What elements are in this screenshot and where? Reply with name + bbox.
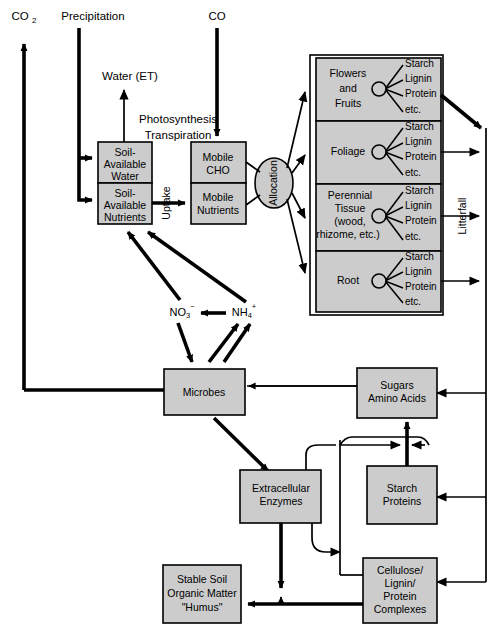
perennial-line-3: (wood, — [334, 215, 366, 227]
box-perennial-tissue[interactable]: Perennial Tissue (wood, rhizome, etc.) S… — [316, 184, 441, 251]
perennial-etc: etc. — [405, 231, 421, 242]
water-et-text: Water (ET) — [102, 70, 158, 82]
box-soil-available-water[interactable]: Soil- Available Water — [98, 142, 152, 183]
soil-water-line-3: Water — [111, 170, 139, 182]
enzymes-line-1: Extracellular — [252, 482, 310, 494]
mobile-cho-line-2: CHO — [206, 164, 229, 176]
foliage-protein: Protein — [405, 151, 437, 162]
root-etc: etc. — [405, 296, 421, 307]
complexes-line-4: Complexes — [374, 603, 427, 615]
svg-text:CO 2: CO 2 — [12, 10, 37, 25]
nutrients-to-allocation-line — [246, 195, 260, 205]
flowers-litterfall-arrow — [441, 95, 481, 128]
root-lignin: Lignin — [405, 266, 432, 277]
soil-nutrients-line-2: Available — [104, 199, 147, 211]
label-precipitation: Precipitation — [61, 10, 124, 22]
box-starch-proteins[interactable]: Starch Proteins — [367, 466, 437, 524]
complexes-line-3: Protein — [383, 590, 416, 602]
enzymes-line-2: Enzymes — [259, 495, 302, 507]
enzyme-bridge-arc — [340, 437, 429, 445]
flowers-line-2: and — [339, 82, 357, 94]
box-mobile-nutrients[interactable]: Mobile Nutrients — [191, 183, 246, 224]
ammonium-sub: 4 — [248, 311, 252, 320]
svg-text:NO3−: NO3− — [169, 302, 195, 320]
co2-left-text: CO — [12, 10, 29, 22]
foliage-starch: Starch — [405, 121, 434, 132]
ammonium-base: NH — [232, 306, 248, 318]
flowers-protein: Protein — [405, 88, 437, 99]
perennial-protein: Protein — [405, 215, 437, 226]
humus-line-1: Stable Soil — [177, 573, 227, 585]
complexes-line-1: Cellulose/ — [377, 564, 423, 576]
soil-water-line-2: Available — [104, 158, 147, 170]
label-co2-right: CO 2 — [208, 10, 225, 22]
label-nitrate: NO3− — [169, 302, 195, 320]
soil-nutrients-line-1: Soil- — [114, 187, 136, 199]
mobile-nutrients-line-1: Mobile — [203, 191, 234, 203]
ecosystem-cycling-diagram: CO 2 Precipitation CO 2 Water (ET) Photo… — [0, 0, 503, 640]
soil-nutrients-line-3: Nutrients — [104, 211, 146, 223]
humus-line-2: Organic Matter — [167, 587, 237, 599]
flowers-starch: Starch — [405, 58, 434, 69]
mobile-cho-line-1: Mobile — [203, 151, 234, 163]
box-soil-available-nutrients[interactable]: Soil- Available Nutrients — [98, 183, 152, 224]
enzymes-to-complexes-elbow — [312, 523, 340, 552]
box-extracellular-enzymes[interactable]: Extracellular Enzymes — [240, 470, 321, 523]
box-foliage[interactable]: Foliage Starch Lignin Protein etc. — [316, 121, 441, 184]
microbes-to-ammonium-arrow-1 — [209, 324, 238, 362]
root-starch: Starch — [405, 251, 434, 262]
diagram-canvas: CO 2 Precipitation CO 2 Water (ET) Photo… — [0, 0, 503, 640]
sugars-line-2: Amino Acids — [368, 392, 426, 404]
perennial-lignin: Lignin — [405, 200, 432, 211]
flowers-line-1: Flowers — [330, 67, 367, 79]
box-root[interactable]: Root Starch Lignin Protein etc. — [316, 251, 441, 312]
allocation-label: Allocation — [267, 160, 279, 206]
flowers-line-3: Fruits — [335, 97, 361, 109]
foliage-etc: etc. — [405, 167, 421, 178]
label-co2-left: CO 2 — [12, 10, 37, 25]
humus-line-3: "Humus" — [182, 601, 223, 613]
box-sugars-amino-acids[interactable]: Sugars Amino Acids — [357, 368, 437, 418]
box-cellulose-lignin-protein-complexes[interactable]: Cellulose/ Lignin/ Protein Complexes — [363, 558, 437, 623]
box-mobile-cho[interactable]: Mobile CHO — [191, 142, 246, 183]
box-flowers-and-fruits[interactable]: Flowers and Fruits Starch Lignin Protein… — [316, 58, 441, 121]
soil-water-line-1: Soil- — [114, 146, 136, 158]
perennial-line-1: Perennial — [328, 189, 372, 201]
litterfall-label: Litterfall — [456, 198, 468, 235]
microbes-label: Microbes — [183, 386, 226, 398]
starch-proteins-line-1: Starch — [387, 482, 418, 494]
complexes-line-2: Lignin/ — [385, 577, 416, 589]
perennial-line-4: rhizome, etc.) — [316, 228, 380, 240]
box-microbes[interactable]: Microbes — [164, 369, 245, 415]
root-line-1: Root — [337, 274, 359, 286]
svg-text:NH4+: NH4+ — [232, 302, 257, 320]
perennial-starch: Starch — [405, 185, 434, 196]
mobile-nutrients-line-2: Nutrients — [197, 204, 239, 216]
photosynthesis-text: Photosynthesis — [139, 113, 217, 125]
microbes-to-enzymes-arrow — [214, 418, 268, 471]
label-photosynthesis: Photosynthesis Transpiration — [139, 113, 217, 141]
transpiration-text: Transpiration — [145, 129, 212, 141]
enzymes-up-elbow — [306, 445, 336, 470]
ammonium-sup: + — [252, 302, 257, 311]
flowers-lignin: Lignin — [405, 73, 432, 84]
label-ammonium: NH4+ — [232, 302, 257, 320]
nitrate-sup: − — [190, 302, 195, 311]
box-stable-soil-organic-matter[interactable]: Stable Soil Organic Matter "Humus" — [163, 565, 241, 623]
precipitation-text: Precipitation — [61, 10, 124, 22]
foliage-lignin: Lignin — [405, 136, 432, 147]
sugars-line-1: Sugars — [380, 379, 413, 391]
allocation-to-perennial-arrow — [292, 193, 305, 218]
root-protein: Protein — [405, 281, 437, 292]
allocation-to-foliage-arrow — [292, 155, 305, 173]
co2-right-text: CO — [208, 10, 225, 22]
cho-to-allocation-line — [246, 162, 260, 172]
allocation-to-root-arrow — [287, 199, 305, 273]
ammonium-to-soil-nutrients-arrow — [148, 232, 246, 302]
nitrate-to-soil-nutrients-arrow — [128, 232, 180, 300]
uptake-label: Uptake — [160, 186, 172, 219]
nitrate-base: NO — [169, 306, 186, 318]
perennial-line-2: Tissue — [335, 202, 366, 214]
precip-to-soil-nutrients-arrow — [79, 158, 92, 200]
allocation-to-flowers-arrow — [287, 92, 305, 168]
